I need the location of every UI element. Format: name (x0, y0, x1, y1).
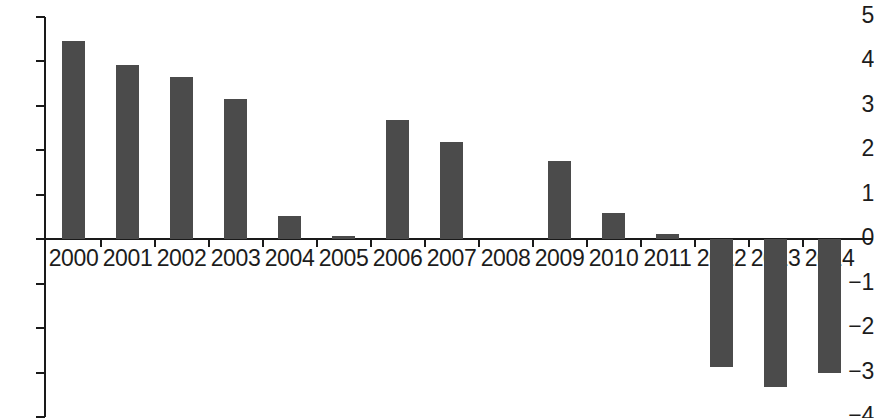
bar (656, 234, 679, 239)
y-axis-tick (36, 60, 45, 62)
bar (170, 77, 193, 239)
bar (224, 99, 247, 239)
bar (548, 161, 571, 240)
y-axis-tick (36, 194, 45, 196)
y-axis-tick-label: 1 (840, 182, 874, 205)
x-axis-tick-label: 2003 (209, 246, 263, 271)
x-axis-tick-label: 2005 (317, 246, 371, 271)
y-axis-tick (36, 327, 45, 329)
y-axis-tick (36, 372, 45, 374)
bar (710, 239, 733, 367)
y-axis-tick (36, 16, 45, 18)
bar (764, 239, 787, 387)
bar (332, 236, 355, 239)
bar (386, 120, 409, 239)
y-axis-tick-label: −2 (840, 315, 874, 338)
y-axis-tick-label: −4 (840, 404, 874, 418)
x-axis-tick-label: 2001 (101, 246, 155, 271)
x-axis-tick-label: 2008 (479, 246, 533, 271)
y-axis-tick (36, 149, 45, 151)
y-axis-tick (36, 283, 45, 285)
x-axis-tick-label: 2007 (425, 246, 479, 271)
y-axis-line (44, 17, 46, 417)
bar (440, 142, 463, 239)
y-axis-tick-label: 4 (840, 48, 874, 71)
bar (62, 41, 85, 239)
y-axis-tick-label: −3 (840, 360, 874, 383)
y-axis-tick-label: 2 (840, 137, 874, 160)
x-axis-tick-label: 2011 (641, 246, 695, 271)
bar (278, 216, 301, 239)
x-axis-tick-label: 2000 (47, 246, 101, 271)
x-axis-tick-label: 2004 (263, 246, 317, 271)
y-axis-tick (36, 105, 45, 107)
x-axis-tick-label: 2006 (371, 246, 425, 271)
x-axis-tick-label: 2010 (587, 246, 641, 271)
bar (818, 239, 841, 373)
x-axis-tick-label: 2009 (533, 246, 587, 271)
y-axis-tick-label: 5 (840, 4, 874, 27)
y-axis-tick (36, 238, 45, 240)
bar (116, 65, 139, 240)
y-axis-tick-label: 3 (840, 93, 874, 116)
bar (602, 213, 625, 240)
bar-chart: 543210−1−2−3−4 2000200120022003200420052… (0, 0, 874, 418)
x-axis-tick-label: 2002 (155, 246, 209, 271)
y-axis-tick-label: −1 (840, 271, 874, 294)
